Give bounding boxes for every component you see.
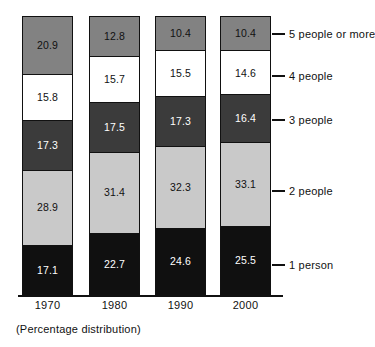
bar-segment-2000-one-person[interactable]: 25.5: [220, 226, 271, 295]
legend-label: 1 person: [289, 259, 333, 271]
segment-value-label: 25.5: [235, 255, 256, 266]
legend-leader-line-icon: [272, 119, 285, 121]
legend-leader-line-icon: [272, 75, 285, 77]
bar-segment-2000-two-people[interactable]: 33.1: [220, 142, 271, 227]
legend-leader-line-icon: [272, 33, 285, 35]
segment-value-label: 32.3: [170, 182, 191, 193]
bar-1980[interactable]: 12.8 15.7 17.5 31.4 22.7: [89, 16, 140, 295]
bar-segment-1990-three-people[interactable]: 17.3: [155, 96, 206, 147]
x-axis-tick-1970: 1970: [22, 299, 73, 311]
legend-item-two-people[interactable]: 2 people: [272, 185, 333, 197]
x-axis-tick-1990: 1990: [155, 299, 206, 311]
bar-1990[interactable]: 10.4 15.5 17.3 32.3 24.6: [155, 16, 206, 295]
legend-label: 2 people: [289, 185, 333, 197]
x-axis-tick-1980: 1980: [89, 299, 140, 311]
bar-segment-1990-one-person[interactable]: 24.6: [155, 228, 206, 295]
legend-label: 5 people or more: [289, 28, 375, 40]
segment-value-label: 31.4: [104, 187, 125, 198]
legend-label: 3 people: [289, 114, 333, 126]
bar-segment-2000-four-people[interactable]: 14.6: [220, 50, 271, 95]
segment-value-label: 24.6: [170, 256, 191, 267]
bar-segment-2000-five-people-or-more[interactable]: 10.4: [220, 16, 271, 51]
segment-value-label: 20.9: [37, 40, 58, 51]
segment-value-label: 14.6: [235, 68, 256, 79]
bar-1970[interactable]: 20.9 15.8 17.3 28.9 17.1: [22, 16, 73, 295]
segment-value-label: 17.3: [170, 116, 191, 127]
segment-value-label: 17.3: [37, 140, 58, 151]
segment-value-label: 33.1: [235, 179, 256, 190]
bar-segment-2000-three-people[interactable]: 16.4: [220, 94, 271, 143]
segment-value-label: 28.9: [37, 202, 58, 213]
bar-segment-1980-one-person[interactable]: 22.7: [89, 233, 140, 296]
legend-label: 4 people: [289, 70, 333, 82]
legend-item-three-people[interactable]: 3 people: [272, 114, 333, 126]
legend-leader-line-icon: [272, 264, 285, 266]
bar-segment-1970-five-people-or-more[interactable]: 20.9: [22, 16, 73, 75]
segment-value-label: 16.4: [235, 113, 256, 124]
x-axis-tick-2000: 2000: [220, 299, 271, 311]
bar-segment-1970-one-person[interactable]: 17.1: [22, 245, 73, 295]
segment-value-label: 15.7: [104, 74, 125, 85]
segment-value-label: 10.4: [235, 28, 256, 39]
bar-2000[interactable]: 10.4 14.6 16.4 33.1 25.5: [220, 16, 271, 295]
segment-value-label: 17.1: [37, 265, 58, 276]
segment-value-label: 17.5: [104, 122, 125, 133]
chart-caption: (Percentage distribution): [16, 323, 141, 335]
bar-segment-1990-two-people[interactable]: 32.3: [155, 146, 206, 230]
bar-segment-1980-five-people-or-more[interactable]: 12.8: [89, 16, 140, 57]
legend-leader-line-icon: [272, 190, 285, 192]
bar-segment-1980-two-people[interactable]: 31.4: [89, 152, 140, 234]
plot-area: 20.9 15.8 17.3 28.9 17.1 12.8 15.7: [22, 16, 272, 295]
bar-segment-1990-four-people[interactable]: 15.5: [155, 50, 206, 97]
segment-value-label: 15.5: [170, 68, 191, 79]
segment-value-label: 12.8: [104, 31, 125, 42]
segment-value-label: 22.7: [104, 259, 125, 270]
bar-segment-1990-five-people-or-more[interactable]: 10.4: [155, 16, 206, 51]
bar-segment-1970-two-people[interactable]: 28.9: [22, 170, 73, 246]
legend-item-one-person[interactable]: 1 person: [272, 259, 333, 271]
bar-segment-1980-three-people[interactable]: 17.5: [89, 102, 140, 153]
bar-segment-1970-four-people[interactable]: 15.8: [22, 74, 73, 121]
legend-item-five-people-or-more[interactable]: 5 people or more: [272, 28, 375, 40]
segment-value-label: 15.8: [37, 92, 58, 103]
segment-value-label: 10.4: [170, 28, 191, 39]
bar-segment-1970-three-people[interactable]: 17.3: [22, 120, 73, 171]
x-axis-line: [18, 295, 283, 297]
legend-item-four-people[interactable]: 4 people: [272, 70, 333, 82]
bar-segment-1980-four-people[interactable]: 15.7: [89, 56, 140, 103]
